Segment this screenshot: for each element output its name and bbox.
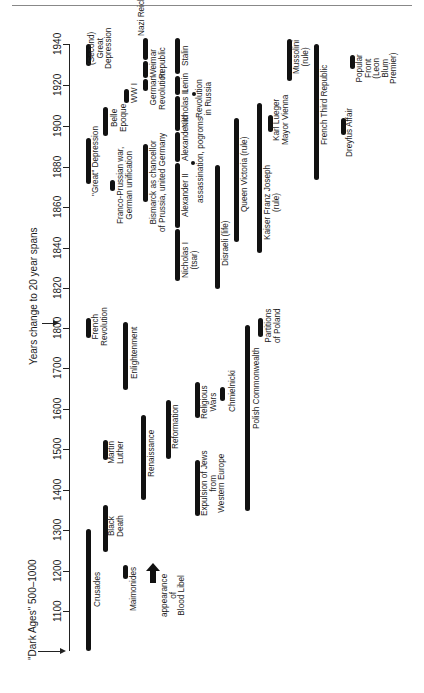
label-french-third-republic: French Third Republic <box>321 65 330 145</box>
label-great-depression: "Great" Depression <box>92 126 101 196</box>
label-belle-epoque: BelleEpoque <box>111 104 128 132</box>
bar-stalin <box>175 38 180 74</box>
bar-nazi-reich <box>143 38 148 60</box>
dark-ages-arrow-icon <box>38 651 60 652</box>
label-revolution-russia: Revolutionin Russia <box>196 79 213 118</box>
bar-polish-commonwealth <box>245 325 250 511</box>
axis-tick-label: 1880 <box>53 156 63 178</box>
label-stalin: Stalin <box>182 46 191 66</box>
axis-tick <box>63 126 70 127</box>
label-crusades: Crusades <box>94 572 103 607</box>
bar-weimar <box>143 61 148 78</box>
bar-bismarck <box>143 144 148 202</box>
dark-ages-arrowhead-icon <box>60 648 66 654</box>
label-popular-front: PopularFront(LeonBlumPremier) <box>356 53 399 84</box>
axis-tick <box>63 248 70 249</box>
label-french-revolution: FrenchRevolution <box>92 307 109 346</box>
label-franz-joseph: Kaiser Franz Joseph(rule) <box>264 165 281 240</box>
label-queen-victoria: Queen Victoria (rule) <box>241 137 250 212</box>
axis-tick <box>63 368 70 369</box>
label-expulsion: Expulsion of JewsfromWestern Europe <box>201 450 227 516</box>
label-maimonides: Maimonides <box>130 567 139 611</box>
axis-tick-label: 1200 <box>53 560 63 582</box>
bar-franco-prussian <box>110 180 115 191</box>
label-partitions-poland: Partitionsof Poland <box>265 308 282 343</box>
bar-renaissance <box>141 415 146 500</box>
axis-tick-label: 1860 <box>53 196 63 218</box>
axis-tick <box>63 328 70 329</box>
label-chmielnicki: Chmielnicki <box>229 370 238 412</box>
axis-tick-label: 1600 <box>53 398 63 420</box>
axis-tick <box>63 490 70 491</box>
axis-tick-label: 1500 <box>53 438 63 460</box>
label-black-death: BlackDeath <box>108 515 125 537</box>
axis-tick-label: 1700 <box>53 357 63 379</box>
bar-french-third-republic <box>314 44 319 180</box>
bar-nicholas-ii <box>175 96 180 131</box>
label-ww1: WW I <box>131 83 140 103</box>
axis-tick <box>63 85 70 86</box>
bar-maimonides <box>123 565 128 579</box>
label-enlightenment: Enlightenment <box>131 327 140 379</box>
bar-partitions-poland <box>258 318 263 337</box>
label-mussolini: Mussolini(rule) <box>293 40 310 74</box>
bar-german-revolution <box>143 79 148 91</box>
label-dreyfus: Dreyfus Affair <box>346 108 355 157</box>
axis-tick <box>63 44 70 45</box>
blood-libel-arrow-icon <box>146 563 160 583</box>
dot-assassination <box>191 161 195 165</box>
label-disraeli: Disraeli (life) <box>222 221 231 267</box>
label-alexander-iii: Alexander III <box>182 115 191 161</box>
label-franco-prussian: Franco-Prussian war,German unification <box>117 147 134 224</box>
bar-nicholas-i <box>175 229 180 281</box>
axis-tick-label: 1400 <box>53 479 63 501</box>
axis-tick <box>63 207 70 208</box>
scale-change-arrowhead-icon <box>53 320 59 326</box>
bar-franz-joseph <box>257 103 262 253</box>
axis-tick <box>63 530 70 531</box>
dark-ages-note: "Dark Ages" 500–1000 <box>27 559 38 660</box>
label-karl-lueger: Karl LuegerMayor Vienna <box>273 95 290 145</box>
label-blood-libel: appearanceofBlood Libel <box>161 574 187 617</box>
axis-tick <box>63 611 70 612</box>
bar-lenin <box>175 76 180 95</box>
label-assassination: assassination, pogroms <box>197 117 206 203</box>
bar-ww1 <box>124 89 129 103</box>
bar-enlightenment <box>123 322 128 390</box>
axis-tick <box>63 167 70 168</box>
label-religious-wars: ReligiousWars <box>201 385 218 419</box>
bar-alexander-iii <box>175 132 180 162</box>
axis-tick-label: 1940 <box>53 33 63 55</box>
label-alexander-ii: Alexander II <box>182 173 191 217</box>
axis-tick <box>63 449 70 450</box>
axis-tick <box>63 571 70 572</box>
axis-tick-label: 1300 <box>53 519 63 541</box>
top-rule <box>12 5 412 6</box>
bar-chmielnicki <box>220 387 225 401</box>
axis-tick-label: 1840 <box>53 237 63 259</box>
label-german-revolution: GermanRevolution <box>150 71 167 110</box>
label-nazi-reich: Nazi Reich <box>138 0 147 36</box>
axis-tick-label: 1900 <box>53 115 63 137</box>
label-nicholas-i: Nicholas I(tsar) <box>182 242 199 278</box>
bar-crusades <box>86 529 91 651</box>
bar-disraeli <box>215 165 220 289</box>
axis-tick <box>63 409 70 410</box>
label-bismarck: Bismarck as chancellorof Prussia, united… <box>150 133 167 232</box>
label-renaissance: Renaissance <box>148 430 157 477</box>
scale-change-note: Years change to 20 year spans <box>28 227 39 365</box>
axis-tick-label: 1820 <box>53 277 63 299</box>
axis-tick-label: 1920 <box>53 74 63 96</box>
axis-tick <box>63 288 70 289</box>
bar-queen-victoria <box>234 118 239 242</box>
label-second-great-depression: (Second)GreatDepression <box>88 28 114 69</box>
bar-alexander-ii <box>175 163 180 228</box>
time-axis <box>69 44 70 651</box>
label-martin-luther: MartinLuther <box>108 441 125 464</box>
axis-tick-label: 1100 <box>53 600 63 622</box>
bar-belle-epoque <box>103 107 108 136</box>
label-reformation: Reformation <box>172 404 181 449</box>
label-polish-commonwealth: Polish Commonwealth <box>253 348 262 429</box>
